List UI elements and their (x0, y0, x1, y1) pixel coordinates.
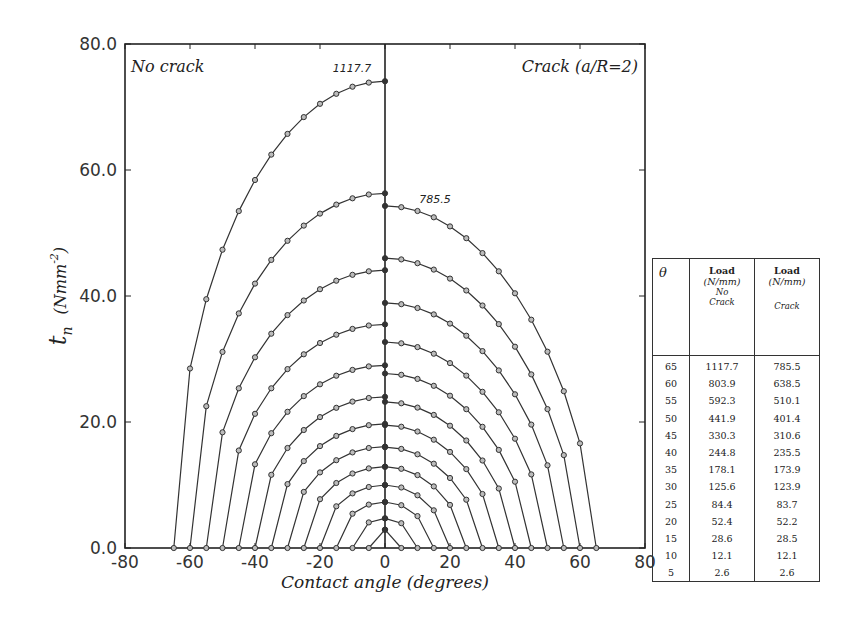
data-point-marker (415, 261, 420, 266)
data-point-marker (269, 545, 274, 550)
no-crack-header-load: Load (690, 265, 754, 276)
data-point-marker (252, 545, 257, 550)
table-row: 2052.452.2 (653, 513, 820, 530)
data-point-marker (366, 269, 371, 274)
data-point-marker (464, 333, 469, 338)
data-point-marker (317, 415, 322, 420)
data-point-marker (480, 251, 485, 256)
data-point-marker (366, 192, 371, 197)
data-point-marker (382, 394, 387, 399)
table-cell-no-crack: 330.3 (690, 427, 755, 444)
data-point-marker (236, 448, 241, 453)
data-point-marker (301, 545, 306, 550)
table-cell-no-crack: 178.1 (690, 461, 755, 478)
table-cell-theta: 15 (653, 530, 690, 547)
table-header-row: θ Load (N/mm) No Crack Load (N/mm) Crack (653, 259, 820, 356)
data-point-marker (480, 458, 485, 463)
x-tick-label: 0 (380, 552, 391, 572)
load-table: θ Load (N/mm) No Crack Load (N/mm) Crack… (652, 258, 820, 582)
data-point-marker (382, 79, 387, 84)
table-cell-crack: 785.5 (755, 356, 820, 376)
data-point-marker (399, 545, 404, 550)
data-point-marker (317, 497, 322, 502)
data-point-marker (334, 278, 339, 283)
table-row: 35178.1173.9 (653, 461, 820, 478)
data-point-marker (204, 297, 209, 302)
data-point-marker (480, 349, 485, 354)
data-point-marker (415, 545, 420, 550)
data-point-marker (382, 339, 387, 344)
table-cell-theta: 45 (653, 427, 690, 444)
data-point-marker (399, 424, 404, 429)
data-point-marker (512, 291, 517, 296)
data-point-marker (366, 323, 371, 328)
data-point-marker (285, 445, 290, 450)
x-tick-label: -40 (241, 552, 269, 572)
table-row: 45330.3310.6 (653, 427, 820, 444)
data-point-marker (285, 409, 290, 414)
x-tick-label: -20 (306, 552, 334, 572)
data-point-marker (431, 461, 436, 466)
data-point-marker (350, 84, 355, 89)
data-point-marker (480, 491, 485, 496)
data-point-marker (529, 472, 534, 477)
data-point-marker (366, 423, 371, 428)
data-point-marker (496, 368, 501, 373)
data-point-marker (464, 467, 469, 472)
table-cell-crack: 173.9 (755, 461, 820, 478)
data-point-marker (447, 502, 452, 507)
data-point-marker (187, 366, 192, 371)
data-point-marker (366, 364, 371, 369)
data-point-marker (561, 453, 566, 458)
data-point-marker (252, 411, 257, 416)
data-point-marker (464, 373, 469, 378)
data-point-marker (529, 422, 534, 427)
left-peak-label: 1117.7 (333, 62, 372, 75)
data-point-marker (399, 372, 404, 377)
data-point-marker (399, 446, 404, 451)
y-tick-label: 80.0 (79, 34, 117, 54)
data-point-marker (382, 464, 387, 469)
curve-line (206, 270, 385, 548)
data-point-marker (447, 475, 452, 480)
chart-axes: -80-60-40-200204060800.020.040.060.080.0 (79, 34, 656, 572)
curve-line (369, 530, 385, 548)
table-cell-theta: 30 (653, 478, 690, 495)
data-point-marker (366, 80, 371, 85)
data-point-marker (285, 482, 290, 487)
crack-load-header: Load (N/mm) Crack (755, 259, 820, 356)
data-point-marker (252, 281, 257, 286)
y-tick-label: 60.0 (79, 160, 117, 180)
data-point-marker (447, 545, 452, 550)
data-point-marker (252, 355, 257, 360)
y-axis-units: (Nmm (51, 264, 70, 315)
data-point-marker (399, 302, 404, 307)
table-row: 60803.9638.5 (653, 375, 820, 392)
data-point-marker (577, 545, 582, 550)
data-point-marker (431, 312, 436, 317)
table-cell-theta: 55 (653, 392, 690, 409)
data-point-marker (252, 177, 257, 182)
data-point-marker (561, 389, 566, 394)
table-row: 30125.6123.9 (653, 478, 820, 495)
data-point-marker (317, 287, 322, 292)
data-point-marker (545, 407, 550, 412)
table-row: 52.62.6 (653, 564, 820, 582)
data-point-marker (350, 272, 355, 277)
table-row: 1528.628.5 (653, 530, 820, 547)
data-point-marker (431, 545, 436, 550)
curve-line (223, 324, 386, 548)
table-cell-crack: 401.4 (755, 410, 820, 427)
curve-crack-theta-30 (382, 445, 485, 551)
table-body: 651117.7785.560803.9638.555592.3510.1504… (653, 356, 820, 582)
data-point-marker (317, 101, 322, 106)
curve-crack-theta-65 (382, 203, 599, 550)
data-point-marker (447, 393, 452, 398)
curve-line (385, 303, 564, 548)
data-point-marker (269, 257, 274, 262)
y-tick-label: 40.0 (79, 286, 117, 306)
data-point-marker (350, 511, 355, 516)
data-point-marker (334, 91, 339, 96)
crack-annotation: Crack (a/R=2) (522, 57, 638, 76)
data-point-marker (431, 412, 436, 417)
